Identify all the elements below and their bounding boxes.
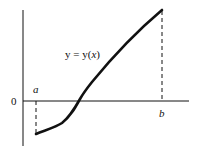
function-curve [36,10,162,134]
left-bound-label: a [33,83,39,95]
origin-label: 0 [11,95,17,107]
curve-label-lhs: y = y( [65,48,92,61]
function-diagram: 0 a b y = y(x) [0,0,213,152]
curve-label-close: ) [96,48,100,61]
right-bound-label: b [159,107,165,119]
curve-label: y = y(x) [65,48,100,61]
